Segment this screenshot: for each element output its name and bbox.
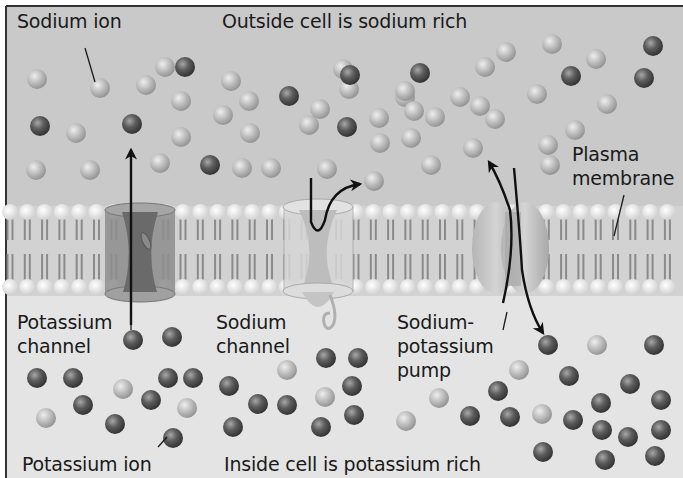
potassium-ion [410, 63, 430, 83]
potassium-ion [538, 335, 558, 355]
potassium-ion [460, 406, 480, 426]
sodium-ion [171, 127, 191, 147]
sodium-ion [261, 158, 281, 178]
sodium-ion [565, 120, 585, 140]
sodium-ion [429, 388, 449, 408]
inside-cell-label: Inside cell is potassium rich [224, 453, 481, 475]
potassium-ion [337, 117, 357, 137]
sodium-ion [317, 159, 337, 179]
potassium-ion [248, 394, 268, 414]
sodium-ion [113, 379, 133, 399]
sodium-ion [136, 75, 156, 95]
sodium-ion [66, 123, 86, 143]
pump-label-2: potassium [397, 335, 494, 357]
sodium-ion [240, 123, 260, 143]
sodium-ion [155, 57, 175, 77]
potassium-ion [162, 327, 182, 347]
potassium-ion [340, 65, 360, 85]
sodium-ion [80, 160, 100, 180]
sodium-ion [509, 360, 529, 380]
potassium-ion [591, 393, 611, 413]
potassium-ion [559, 366, 579, 386]
potassium-ion [30, 116, 50, 136]
potassium-ion [651, 420, 671, 440]
sodium-ion [27, 69, 47, 89]
potassium-ion [316, 348, 336, 368]
potassium-channel-label-2: channel [17, 335, 91, 357]
potassium-ion [63, 368, 83, 388]
sodium-channel-label-2: channel [216, 335, 290, 357]
potassium-ion [344, 405, 364, 425]
potassium-ion [342, 376, 362, 396]
potassium-ion [158, 368, 178, 388]
sodium-ion [364, 171, 384, 191]
sodium-ion [395, 81, 415, 101]
sodium-ion [597, 94, 617, 114]
potassium-ion [563, 410, 583, 430]
potassium-ion [561, 66, 581, 86]
sodium-ion-label: Sodium ion [17, 10, 122, 32]
plasma-membrane-label-2: membrane [572, 167, 674, 189]
potassium-ion [645, 446, 665, 466]
sodium-ion [485, 109, 505, 129]
sodium-ion [36, 408, 56, 428]
potassium-ion [592, 420, 612, 440]
potassium-ion [311, 417, 331, 437]
sodium-ion [90, 78, 110, 98]
potassium-ion [27, 368, 47, 388]
potassium-ion [141, 390, 161, 410]
plasma-membrane-label-1: Plasma [572, 143, 639, 165]
sodium-ion [299, 115, 319, 135]
potassium-ion [200, 155, 220, 175]
sodium-ion [396, 411, 416, 431]
outside-cell-label: Outside cell is sodium rich [222, 10, 467, 32]
sodium-ion [26, 160, 46, 180]
potassium-ion [533, 442, 553, 462]
potassium-ion [123, 330, 143, 350]
sodium-ion [540, 155, 560, 175]
pump-label-3: pump [397, 359, 451, 381]
sodium-ion [369, 108, 389, 128]
sodium-ion [421, 155, 441, 175]
potassium-ion [643, 36, 663, 56]
potassium-ion [219, 376, 239, 396]
potassium-ion [488, 381, 508, 401]
potassium-channel [105, 203, 175, 302]
sodium-ion [450, 87, 470, 107]
potassium-ion [634, 68, 654, 88]
potassium-ion [122, 114, 142, 134]
sodium-ion [586, 49, 606, 69]
potassium-ion [644, 335, 664, 355]
potassium-ion [348, 348, 368, 368]
sodium-ion [177, 398, 197, 418]
potassium-ion [73, 395, 93, 415]
potassium-ion [183, 368, 203, 388]
sodium-ion [542, 34, 562, 54]
sodium-ion [425, 107, 445, 127]
sodium-ion [538, 135, 558, 155]
potassium-ion [595, 450, 615, 470]
sodium-ion [171, 91, 191, 111]
potassium-ion [105, 414, 125, 434]
sodium-channel-label-1: Sodium [216, 311, 286, 333]
sodium-ion [404, 101, 424, 121]
sodium-ion [277, 360, 297, 380]
potassium-ion [175, 57, 195, 77]
potassium-ion [279, 86, 299, 106]
potassium-ion [618, 427, 638, 447]
potassium-channel-label-1: Potassium [17, 311, 112, 333]
sodium-ion [213, 105, 233, 125]
sodium-ion [239, 91, 259, 111]
sodium-ion [463, 138, 483, 158]
potassium-ion [500, 407, 520, 427]
sodium-ion [587, 335, 607, 355]
sodium-ion [527, 84, 547, 104]
sodium-ion [370, 133, 390, 153]
potassium-ion [223, 417, 243, 437]
potassium-ion-label: Potassium ion [22, 453, 152, 475]
sodium-ion [150, 153, 170, 173]
diagram-artwork [0, 0, 683, 478]
sodium-ion [475, 57, 495, 77]
potassium-ion [620, 374, 640, 394]
potassium-ion [277, 395, 297, 415]
